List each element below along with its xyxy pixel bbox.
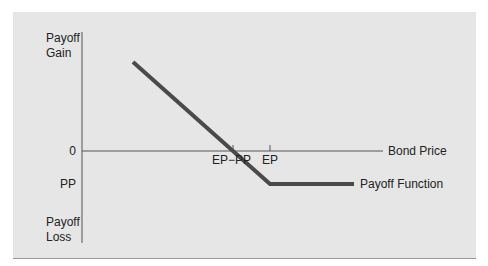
x-tick-ep-minus-pp: EP−PP xyxy=(212,153,251,168)
y-tick-pp: PP xyxy=(50,177,76,192)
y-label-gain: Payoff Gain xyxy=(46,31,80,61)
x-axis-label: Bond Price xyxy=(388,144,447,159)
y-label-loss: Payoff Loss xyxy=(46,215,80,245)
y-tick-zero: 0 xyxy=(60,144,76,159)
x-tick-ep: EP xyxy=(262,153,278,168)
payoff-function-label: Payoff Function xyxy=(360,177,443,192)
